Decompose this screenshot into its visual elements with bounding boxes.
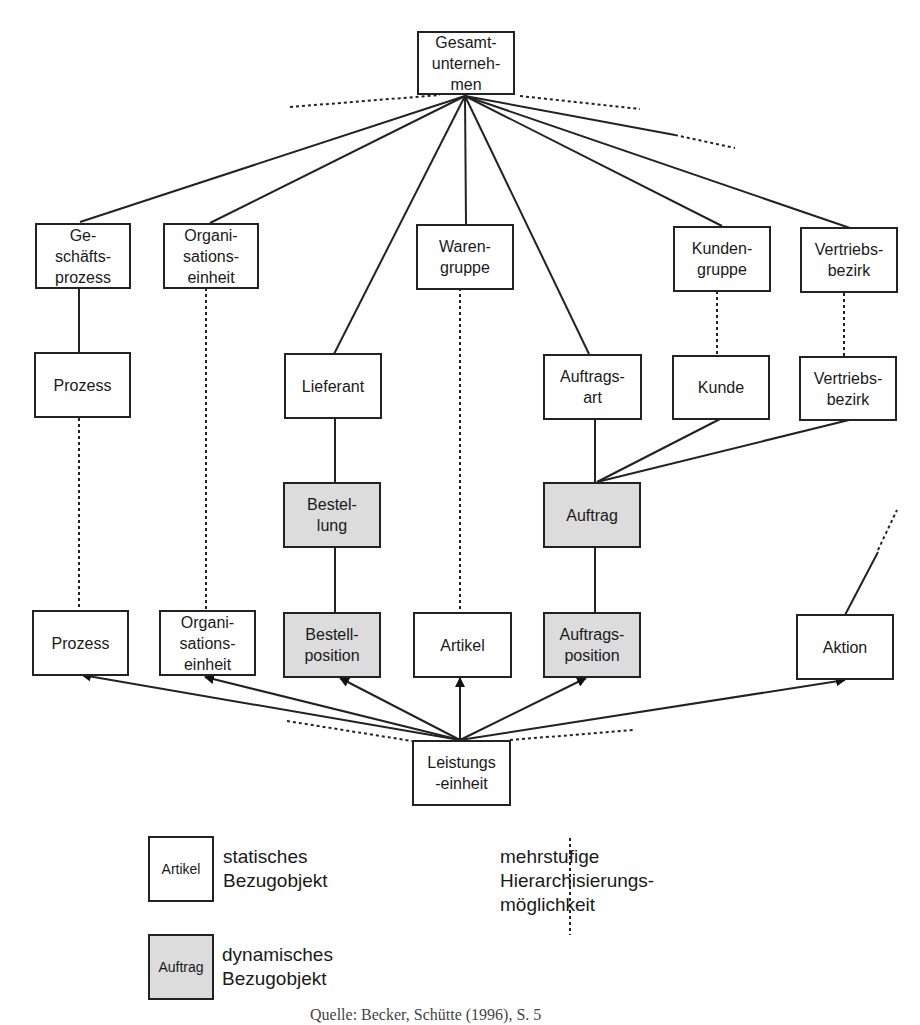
legend-static-box: Artikel (148, 836, 214, 902)
node-aktion: Aktion (796, 614, 894, 680)
node-vertriebsbezirk-top: Vertriebs- bezirk (800, 227, 898, 293)
legend-static-label: statisches Bezugobjekt (223, 845, 328, 893)
node-organisationseinheit-bottom: Organi- sations- einheit (159, 610, 256, 676)
legend-dynamic-box: Auftrag (148, 934, 214, 1000)
legend-dotted-label: mehrstufige Hierarchisierungs- möglichke… (500, 845, 654, 917)
node-geschaeftsprozess: Ge- schäfts- prozess (35, 223, 131, 289)
source-caption: Quelle: Becker, Schütte (1996), S. 5 (310, 1006, 541, 1024)
node-warengruppe: Waren- gruppe (416, 224, 514, 290)
node-leistungseinheit: Leistungs -einheit (412, 740, 511, 806)
connector-lines (0, 0, 920, 1025)
node-artikel: Artikel (413, 612, 512, 678)
node-auftragsposition: Auftrags- position (543, 612, 641, 678)
legend-dynamic-label: dynamisches Bezugobjekt (222, 943, 333, 991)
node-lieferant: Lieferant (284, 353, 382, 419)
node-kunde: Kunde (672, 355, 770, 420)
node-auftragsart: Auftrags- art (543, 354, 642, 420)
node-organisationseinheit: Organi- sations- einheit (163, 223, 259, 289)
node-prozess-bottom: Prozess (32, 610, 129, 676)
node-bestellposition: Bestell- position (283, 612, 381, 678)
node-kundengruppe: Kunden- gruppe (673, 226, 771, 292)
node-bestellung: Bestel- lung (283, 482, 381, 548)
node-vertriebsbezirk-mid: Vertriebs- bezirk (799, 356, 897, 421)
node-gesamtunternehmen: Gesamt- unterneh- men (417, 31, 515, 95)
node-prozess-mid: Prozess (34, 352, 131, 418)
node-auftrag: Auftrag (543, 482, 641, 548)
